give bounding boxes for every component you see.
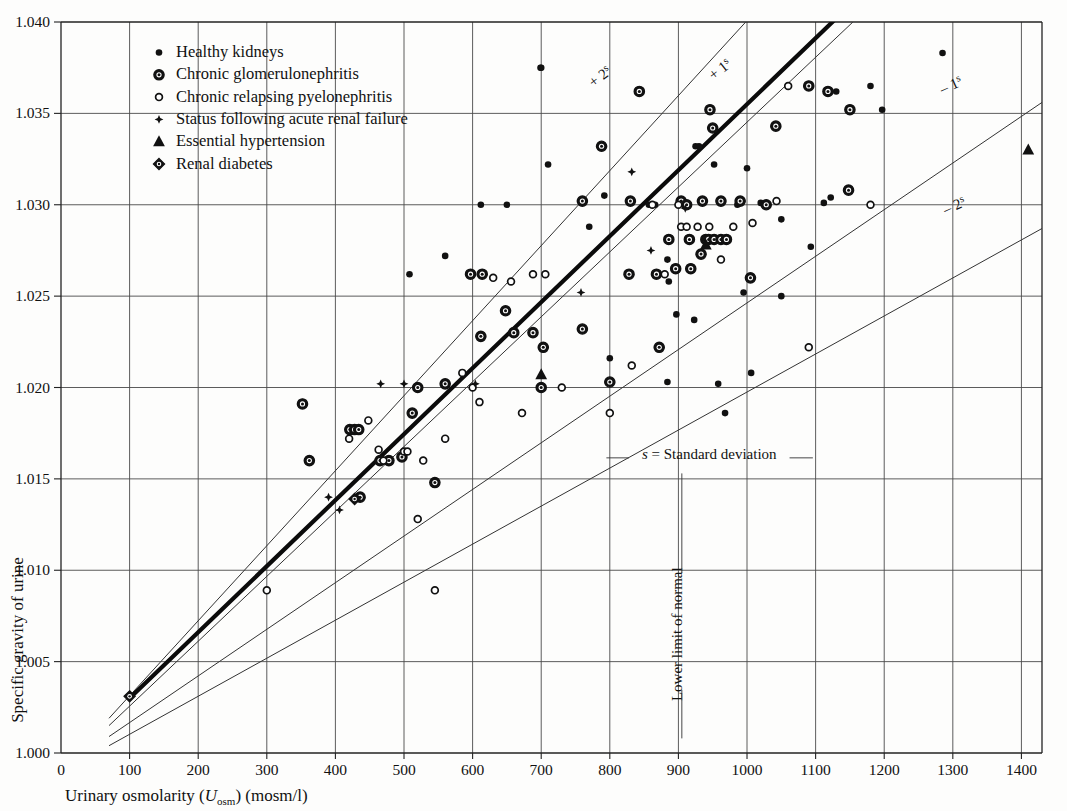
legend: Healthy kidneysChronic glomerulonephriti… xyxy=(153,42,408,173)
data-point xyxy=(627,167,636,176)
data-point-core xyxy=(540,386,543,389)
data-point xyxy=(675,201,682,208)
legend-marker-ring-dot-core xyxy=(158,73,161,76)
y-tick-label: 1.035 xyxy=(15,104,50,121)
data-point-core xyxy=(628,273,631,276)
data-point xyxy=(867,83,874,90)
data-point xyxy=(664,379,671,386)
data-point-core xyxy=(708,108,711,111)
data-point xyxy=(773,198,780,205)
data-point xyxy=(1022,144,1034,155)
data-point-core xyxy=(469,273,472,276)
x-tick-label: 200 xyxy=(187,761,211,778)
data-point xyxy=(666,278,673,285)
data-point-core xyxy=(531,331,534,334)
series-chronic-relapsing-pyelonephritis xyxy=(263,83,873,594)
data-point xyxy=(606,410,613,417)
data-point xyxy=(365,417,372,424)
data-point-core xyxy=(658,346,661,349)
data-point-core xyxy=(353,498,355,500)
x-tick-label: 900 xyxy=(667,761,691,778)
x-tick-label: 1000 xyxy=(732,761,763,778)
y-tick-label: 1.000 xyxy=(15,744,50,761)
data-point-core xyxy=(713,238,716,241)
data-point xyxy=(530,271,537,278)
data-point-core xyxy=(301,402,304,405)
data-point xyxy=(730,223,737,230)
data-point-core xyxy=(542,346,545,349)
data-point-core xyxy=(826,90,829,93)
data-point-core xyxy=(479,335,482,338)
data-point-core xyxy=(433,481,436,484)
x-tick-label: 1400 xyxy=(1006,761,1037,778)
data-point-core xyxy=(674,267,677,270)
x-tick-label: 800 xyxy=(598,761,622,778)
annotation-plus-1s: + 1s xyxy=(705,55,734,83)
data-point-core xyxy=(847,189,850,192)
data-point xyxy=(542,271,549,278)
series-healthy-kidneys xyxy=(406,50,946,417)
annotation-sd-note: s = Standard deviation xyxy=(642,446,777,462)
data-point-core xyxy=(739,200,742,203)
data-point-core xyxy=(629,200,632,203)
y-tick-label: 1.015 xyxy=(15,470,50,487)
legend-label: Chronic glomerulonephritis xyxy=(176,64,359,83)
data-point-core xyxy=(481,273,484,276)
data-point xyxy=(827,194,834,201)
data-point-core xyxy=(688,238,691,241)
data-point xyxy=(694,223,701,230)
data-point xyxy=(459,369,466,376)
data-point xyxy=(577,288,586,297)
legend-marker-small-dot xyxy=(156,49,163,56)
legend-label: Essential hypertension xyxy=(176,131,325,150)
data-point xyxy=(476,399,483,406)
x-axis-title: Urinary osmolarity (Uosm) (mosm/l) xyxy=(65,786,308,807)
data-point-core xyxy=(749,276,752,279)
data-point-core xyxy=(765,203,768,206)
data-point xyxy=(778,216,785,223)
data-point xyxy=(664,256,671,263)
data-point xyxy=(420,457,427,464)
data-point xyxy=(715,381,722,388)
data-point xyxy=(335,506,344,515)
chart-page: + 2s+ 1s– 1s– 2ss = Standard deviationLo… xyxy=(0,0,1067,811)
y-tick-label: 1.030 xyxy=(15,196,50,213)
data-point-core xyxy=(400,455,403,458)
data-point xyxy=(380,457,387,464)
legend-label: Healthy kidneys xyxy=(176,42,284,61)
data-point xyxy=(375,446,382,453)
x-tick-label: 700 xyxy=(530,761,554,778)
sd-line-minus2s xyxy=(109,229,1042,746)
data-point xyxy=(722,410,729,417)
data-point-core xyxy=(667,238,670,241)
x-tick-label: 1300 xyxy=(937,761,968,778)
scatter-plot: + 2s+ 1s– 1s– 2ss = Standard deviationLo… xyxy=(0,0,1067,811)
data-point xyxy=(478,201,485,208)
data-point xyxy=(749,220,756,227)
legend-marker-triangle xyxy=(153,135,165,146)
x-tick-label: 100 xyxy=(118,761,142,778)
data-point-core xyxy=(701,200,704,203)
data-point xyxy=(558,384,565,391)
legend-marker-diamond-dot-core xyxy=(158,163,160,165)
data-point-core xyxy=(655,273,658,276)
data-point xyxy=(867,201,874,208)
data-point-core xyxy=(308,459,311,462)
data-point-core xyxy=(387,459,390,462)
data-point-core xyxy=(416,386,419,389)
data-point xyxy=(785,83,792,90)
x-tick-label: 0 xyxy=(57,761,65,778)
data-point xyxy=(601,192,608,199)
x-tick-label: 1100 xyxy=(800,761,831,778)
data-point-core xyxy=(581,200,584,203)
data-point xyxy=(538,64,545,71)
data-point-core xyxy=(600,145,603,148)
x-tick-label: 400 xyxy=(324,761,348,778)
data-point xyxy=(519,410,526,417)
data-point-core xyxy=(700,253,703,256)
data-point xyxy=(748,370,755,377)
data-point xyxy=(414,516,421,523)
legend-label: Chronic relapsing pyelonephritis xyxy=(176,87,392,106)
data-point xyxy=(263,587,270,594)
annotation-minus-1s: – 1s xyxy=(936,72,965,97)
